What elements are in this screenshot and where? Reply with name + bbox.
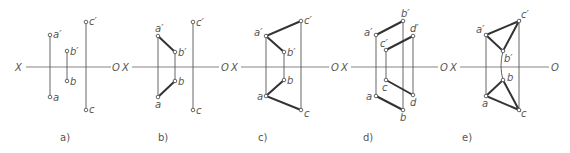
caption-d: d)	[363, 132, 373, 143]
point-a-prime	[156, 34, 160, 38]
axes: X O X O X O X O X O	[14, 62, 559, 73]
point-c	[84, 108, 88, 112]
caption-c: c)	[258, 132, 267, 143]
label-a-prime: a′	[364, 27, 373, 38]
axis-label-x: X	[449, 62, 458, 73]
point-a-prime	[264, 34, 268, 38]
panel-b: a′ b′ c′ a b c b)	[155, 17, 204, 143]
axis-label-o: O	[331, 62, 339, 73]
label-a: a	[155, 99, 161, 110]
point-b	[501, 78, 505, 82]
projection-line-b	[501, 51, 503, 80]
point-b-prime	[401, 19, 405, 23]
label-b-prime: b′	[287, 47, 296, 58]
label-a: a	[257, 91, 263, 102]
axis-label-x: X	[230, 62, 239, 73]
point-a	[48, 95, 52, 99]
edges-front-view	[266, 21, 301, 52]
label-c: c	[89, 104, 95, 115]
point-d-prime	[411, 34, 415, 38]
axis-label-x: X	[340, 62, 349, 73]
label-a-prime: a′	[155, 23, 164, 34]
label-c: c	[304, 108, 310, 119]
point-a	[374, 94, 378, 98]
label-b-prime: b′	[504, 53, 513, 64]
label-c: c	[382, 82, 388, 93]
label-b-prime: b′	[70, 46, 79, 57]
axis-label-o: O	[440, 62, 448, 73]
label-d: d	[410, 97, 417, 108]
label-a-prime: a′	[254, 27, 263, 38]
label-d-prime: d′	[410, 23, 419, 34]
edges-top-view	[266, 80, 301, 110]
label-a: a	[366, 91, 372, 102]
point-c	[191, 108, 195, 112]
label-c-prime: c′	[196, 17, 204, 28]
label-b-prime: b′	[401, 8, 410, 19]
label-c-prime: c′	[521, 9, 529, 20]
point-b-prime	[282, 50, 286, 54]
panel-c: a′ b′ c′ a b c c)	[254, 15, 312, 143]
edge-a-prime-b-prime	[158, 36, 175, 52]
label-c: c	[521, 108, 527, 119]
point-b	[65, 79, 69, 83]
label-a-prime: a′	[53, 29, 62, 40]
label-b: b	[507, 72, 513, 83]
label-b: b	[400, 112, 406, 123]
label-b: b	[70, 76, 76, 87]
point-b	[173, 79, 177, 83]
point-c-prime	[299, 19, 303, 23]
edge-a-b	[376, 96, 403, 110]
caption-e: e)	[462, 132, 472, 143]
point-a	[264, 94, 268, 98]
edge-c-d	[386, 80, 413, 95]
point-a-prime	[48, 33, 52, 37]
point-b-prime	[65, 49, 69, 53]
label-b-prime: b′	[178, 47, 187, 58]
label-b: b	[287, 75, 293, 86]
label-c-prime: c′	[380, 38, 388, 49]
label-a-prime: a′	[476, 24, 485, 35]
triangle-top-view	[486, 80, 519, 110]
axis-label-o: O	[112, 62, 120, 73]
point-a-prime	[374, 33, 378, 37]
edge-a-b	[158, 81, 175, 97]
label-a: a	[482, 98, 488, 109]
caption-a: a)	[60, 132, 70, 143]
point-c-prime	[84, 20, 88, 24]
point-c-prime	[191, 20, 195, 24]
panel-a: a′ b′ c′ a b c a)	[48, 16, 97, 143]
label-b: b	[178, 76, 184, 87]
panel-d: a′ b′ c′ d′ a b c d d)	[363, 8, 419, 143]
projection-figure: X O X O X O X O X O a′ b′ c′ a b c a)	[0, 0, 570, 153]
axis-label-o: O	[221, 62, 229, 73]
caption-b: b)	[158, 132, 168, 143]
label-c-prime: c′	[89, 16, 97, 27]
label-a: a	[53, 92, 59, 103]
point-b-prime	[173, 50, 177, 54]
axis-label-x: X	[121, 62, 130, 73]
axis-label-x: X	[14, 62, 23, 73]
panel-e: a′ b′ c′ a b c e)	[462, 9, 529, 143]
triangle-front-view	[486, 21, 519, 51]
edge-a-prime-b-prime	[376, 21, 403, 35]
point-a-prime	[484, 33, 488, 37]
edge-c-prime-d-prime	[386, 36, 413, 50]
label-c: c	[196, 105, 202, 116]
point-c	[299, 108, 303, 112]
label-c-prime: c′	[304, 15, 312, 26]
point-b	[282, 78, 286, 82]
axis-label-o: O	[551, 62, 559, 73]
